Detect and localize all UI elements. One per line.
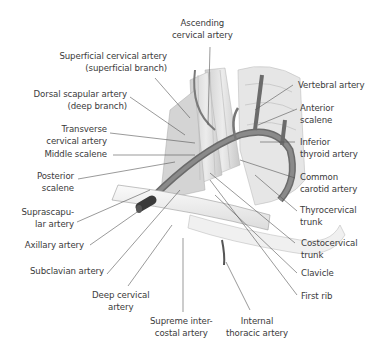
label-transverse-cervical-artery: Transverse cervical artery [46,124,107,147]
label-line: Middle scalene [44,149,107,161]
label-suprascapular-artery: Suprascapu- lar artery [21,207,74,230]
label-clavicle: Clavicle [301,268,334,280]
label-line: Supreme inter- [150,316,213,328]
label-line: Axillary artery [25,240,84,252]
label-line: (deep branch) [34,101,127,113]
label-line: cervical artery [172,30,233,42]
label-line: carotid artery [300,184,357,196]
label-line: Superficial cervical artery [59,51,167,63]
label-axillary-artery: Axillary artery [25,240,84,252]
label-line: Deep cervical [92,290,149,302]
label-line: cervical artery [46,136,107,148]
label-line: scalene [37,183,74,195]
label-middle-scalene: Middle scalene [44,149,107,161]
label-deep-cervical-artery: Deep cervical artery [92,290,149,313]
label-subclavian-artery: Subclavian artery [30,266,104,278]
label-line: Costocervical [301,238,357,250]
label-line: Inferior [300,137,358,149]
label-line: Suprascapu- [21,207,74,219]
label-line: Transverse [46,124,107,136]
label-line: costal artery [150,328,213,340]
label-vertebral-artery: Vertebral artery [298,80,365,92]
label-line: artery [92,302,149,314]
label-anterior-scalene: Anterior scalene [300,103,334,126]
label-line: Dorsal scapular artery [34,89,127,101]
label-line: Thyrocervical [300,205,356,217]
label-costocervical-trunk: Costocervical trunk [301,238,357,261]
label-inferior-thyroid-artery: Inferior thyroid artery [300,137,358,160]
label-line: Internal [226,316,288,328]
label-line: Vertebral artery [298,80,365,92]
label-dorsal-scapular-artery: Dorsal scapular artery (deep branch) [34,89,127,112]
label-first-rib: First rib [301,291,332,303]
label-common-carotid-artery: Common carotid artery [300,172,357,195]
label-line: Anterior [300,103,334,115]
label-line: Ascending [172,18,233,30]
label-line: trunk [300,217,356,229]
label-posterior-scalene: Posterior scalene [37,171,74,194]
label-line: trunk [301,250,357,262]
label-line: Posterior [37,171,74,183]
label-line: (superficial branch) [59,63,167,75]
label-line: lar artery [21,219,74,231]
label-internal-thoracic-artery: Internal thoracic artery [226,316,288,339]
label-supreme-intercostal-artery: Supreme inter- costal artery [150,316,213,339]
label-line: First rib [301,291,332,303]
label-line: Common [300,172,357,184]
label-line: scalene [300,115,334,127]
label-thyrocervical-trunk: Thyrocervical trunk [300,205,356,228]
label-superficial-cervical-artery: Superficial cervical artery (superficial… [59,51,167,74]
label-ascending-cervical-artery: Ascending cervical artery [172,18,233,41]
label-line: thoracic artery [226,328,288,340]
label-line: Subclavian artery [30,266,104,278]
label-line: thyroid artery [300,149,358,161]
label-line: Clavicle [301,268,334,280]
